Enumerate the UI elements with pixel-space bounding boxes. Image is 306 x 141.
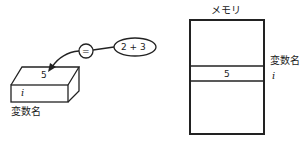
memory-cell-value: 5: [224, 68, 230, 80]
box-value: 5: [41, 69, 47, 81]
expression-label: 2 + 3: [121, 41, 146, 53]
box-variable: i: [21, 87, 24, 99]
arrow-head-icon: [48, 63, 56, 72]
memory-title: メモリ: [211, 5, 241, 17]
memory-variable-name: i: [272, 70, 275, 82]
operator-label: =: [82, 45, 90, 57]
memory-variable-label: 変数名: [270, 55, 300, 67]
box-caption: 変数名: [11, 106, 41, 118]
assign-arrow: [52, 51, 79, 67]
